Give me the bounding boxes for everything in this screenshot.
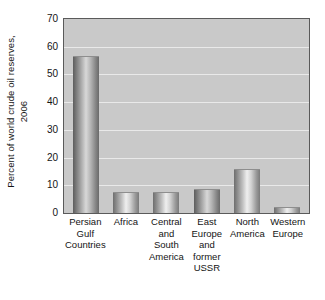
bar-slot xyxy=(146,19,186,213)
bar-chart-figure: Percent of world crude oil reserves, 200… xyxy=(0,0,325,300)
x-tick-label-line: Persian xyxy=(65,216,106,228)
x-tick-label: WesternEurope xyxy=(268,216,308,274)
bar-series xyxy=(64,19,309,213)
x-tick-label-line: USSR xyxy=(187,262,227,274)
bar-slot xyxy=(106,19,146,213)
x-axis-tick-labels: PersianGulfCountriesAfricaCentralandSout… xyxy=(63,216,310,274)
bar-slot xyxy=(66,19,106,213)
x-tick-label-line: and xyxy=(187,239,227,251)
x-tick-label-line: America xyxy=(146,251,186,263)
y-tick-label: 70 xyxy=(47,13,58,24)
x-tick-label-line: North xyxy=(227,216,267,228)
caption-remnant xyxy=(196,289,325,297)
bar-slot xyxy=(267,19,307,213)
x-tick-label-line: former xyxy=(187,251,227,263)
x-tick-label-line: East xyxy=(187,216,227,228)
bar[interactable] xyxy=(73,56,99,213)
x-tick-label-line: Countries xyxy=(65,239,106,251)
plot-area xyxy=(63,18,310,214)
x-tick-label-line: South xyxy=(146,239,186,251)
y-tick-label: 10 xyxy=(47,179,58,190)
y-axis-title-line-1: Percent of world crude oil reserves, xyxy=(5,35,18,188)
bar[interactable] xyxy=(113,192,139,213)
y-axis-title: Percent of world crude oil reserves, 200… xyxy=(0,0,34,222)
x-tick-label-line: Western xyxy=(268,216,308,228)
x-tick-label-line: Africa xyxy=(106,216,146,228)
y-tick-label: 30 xyxy=(47,123,58,134)
y-tick-label: 0 xyxy=(52,207,58,218)
y-tick-label: 50 xyxy=(47,68,58,79)
x-tick-label-line: Gulf xyxy=(65,228,106,240)
bar[interactable] xyxy=(153,192,179,213)
bar[interactable] xyxy=(274,207,300,213)
bar[interactable] xyxy=(194,189,220,213)
x-tick-label: PersianGulfCountries xyxy=(65,216,106,274)
x-tick-label-line: Central xyxy=(146,216,186,228)
bar-slot xyxy=(187,19,227,213)
x-tick-label-line: Europe xyxy=(187,228,227,240)
x-tick-label-line: Europe xyxy=(268,228,308,240)
y-axis-tick-labels: 010203040506070 xyxy=(34,12,61,214)
y-tick-label: 60 xyxy=(47,40,58,51)
x-tick-label: NorthAmerica xyxy=(227,216,267,274)
x-tick-label: CentralandSouthAmerica xyxy=(146,216,186,274)
y-axis-title-line-2: 2006 xyxy=(17,35,30,188)
y-tick-label: 20 xyxy=(47,151,58,162)
x-tick-label-line: America xyxy=(227,228,267,240)
bar[interactable] xyxy=(234,169,260,213)
x-tick-label: EastEuropeandformerUSSR xyxy=(187,216,227,274)
y-tick-label: 40 xyxy=(47,96,58,107)
bar-slot xyxy=(227,19,267,213)
x-tick-label-line: and xyxy=(146,228,186,240)
x-tick-label: Africa xyxy=(106,216,146,274)
